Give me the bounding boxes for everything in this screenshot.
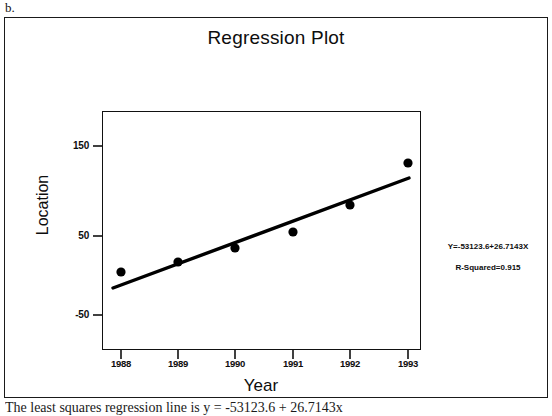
x-tick-label: 1989 <box>158 358 198 369</box>
x-axis-title: Year <box>5 376 517 396</box>
x-tick-label: 1988 <box>101 358 141 369</box>
x-tick-label: 1993 <box>388 358 428 369</box>
y-tick-label: 50 <box>55 230 89 241</box>
regression-equation-annotation: Y=-53123.6+26.7143X <box>425 242 551 251</box>
x-tick-label: 1992 <box>330 358 370 369</box>
y-tick-label: 150 <box>55 140 89 151</box>
figure-root: b. Regression Plot <box>0 0 552 416</box>
y-axis-title: Location <box>34 145 52 265</box>
figure-part-label: b. <box>5 1 15 15</box>
plot-area-frame <box>102 111 421 350</box>
chart-title: Regression Plot <box>5 27 547 49</box>
y-axis-ticks <box>93 146 102 315</box>
figure-border-box: Regression Plot <box>4 17 548 398</box>
r-squared-annotation: R-Squared=0.915 <box>425 263 551 272</box>
figure-caption-partial: The least squares regression line is y =… <box>5 400 405 416</box>
y-tick-label: -50 <box>55 309 89 320</box>
x-tick-label: 1991 <box>273 358 313 369</box>
x-tick-label: 1990 <box>215 358 255 369</box>
